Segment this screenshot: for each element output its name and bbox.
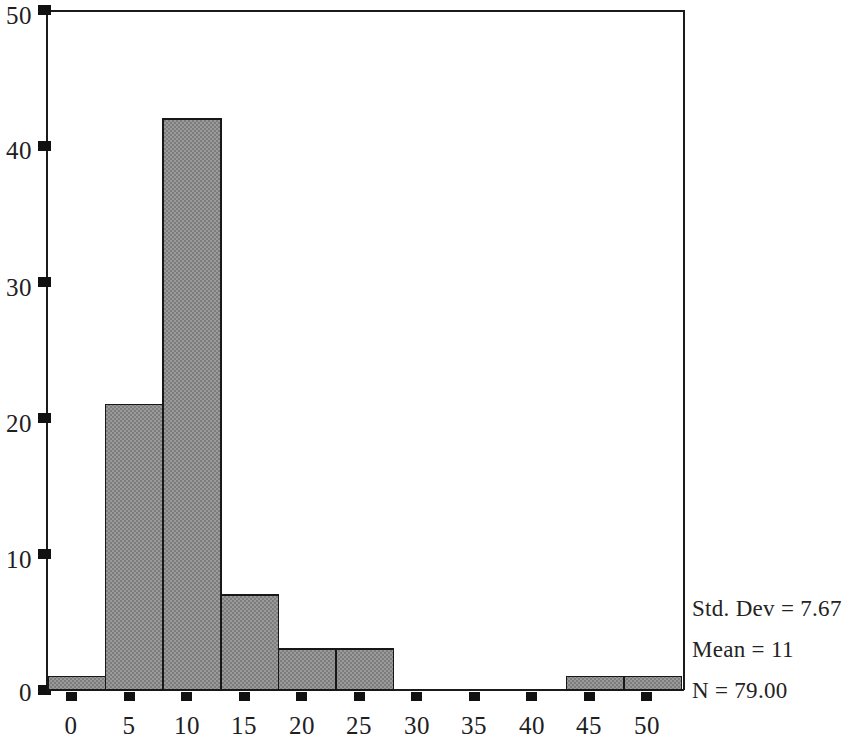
y-tick-label: 10 xyxy=(6,546,32,573)
statistics-annotation: Std. Dev = 7.67 Mean = 11 N = 79.00 xyxy=(692,596,842,703)
histogram-bar xyxy=(278,649,336,690)
x-tick-label: 25 xyxy=(346,712,372,739)
x-tick-label: 5 xyxy=(123,712,136,739)
x-tick-label: 15 xyxy=(231,712,257,739)
histogram-plot-area: 50 40 30 20 10 0 0 5 10 15 20 xyxy=(0,0,849,755)
y-tick-label: 30 xyxy=(6,274,32,301)
stat-std-dev: Std. Dev = 7.67 xyxy=(692,596,842,621)
histogram-bar xyxy=(221,595,279,690)
x-axis-tick-labels: 0 5 10 15 20 25 30 35 40 45 50 xyxy=(65,712,661,739)
x-tick-label: 10 xyxy=(174,712,200,739)
y-tick-label: 0 xyxy=(19,679,32,706)
y-tick-label: 20 xyxy=(6,410,32,437)
x-axis-ticks xyxy=(66,692,652,701)
histogram-bar xyxy=(566,676,624,690)
histogram-bar xyxy=(163,119,221,690)
x-tick-label: 35 xyxy=(461,712,487,739)
stat-mean: Mean = 11 xyxy=(692,637,794,662)
histogram-bar xyxy=(624,676,682,690)
x-tick-label: 20 xyxy=(289,712,315,739)
y-tick-label: 50 xyxy=(6,2,32,29)
histogram-chart: 50 40 30 20 10 0 0 5 10 15 20 xyxy=(0,0,849,755)
x-tick-label: 0 xyxy=(65,712,78,739)
x-tick-label: 40 xyxy=(519,712,545,739)
x-tick-label: 50 xyxy=(634,712,660,739)
y-axis-tick-labels: 50 40 30 20 10 0 xyxy=(6,2,32,706)
x-tick-label: 45 xyxy=(576,712,602,739)
y-tick-label: 40 xyxy=(6,137,32,164)
histogram-bar xyxy=(106,404,164,690)
histogram-bar xyxy=(48,676,106,690)
histogram-bar xyxy=(336,649,394,690)
stat-n: N = 79.00 xyxy=(692,678,788,703)
x-tick-label: 30 xyxy=(404,712,430,739)
